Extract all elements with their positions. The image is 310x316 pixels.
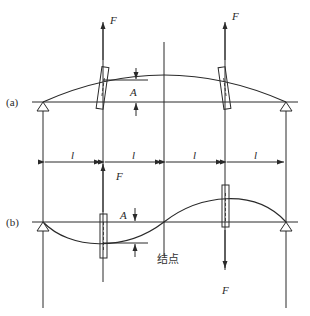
force-label: F	[221, 284, 229, 296]
force-label: F	[109, 14, 117, 26]
force-label: F	[115, 170, 123, 182]
span-label: l	[132, 149, 135, 161]
span-label: l	[71, 149, 74, 161]
vertical-guides	[43, 28, 286, 308]
span-label: l	[254, 149, 257, 161]
pin-support-icon	[37, 102, 49, 111]
amplitude-label: A	[129, 86, 137, 98]
label-a: (a)	[6, 96, 19, 109]
mode-shape-a: (a) F F A	[6, 10, 298, 116]
pin-support-icon	[280, 222, 292, 231]
diagram-canvas: (a) F F A l l l l (b)	[0, 0, 310, 316]
mode-shape-b: (b) F F A 结点	[6, 164, 298, 296]
label-b: (b)	[6, 216, 19, 229]
pin-support-icon	[280, 102, 292, 111]
force-label: F	[231, 10, 239, 22]
span-label: l	[193, 149, 196, 161]
amplitude-label: A	[119, 209, 127, 221]
node-label: 结点	[157, 253, 179, 266]
